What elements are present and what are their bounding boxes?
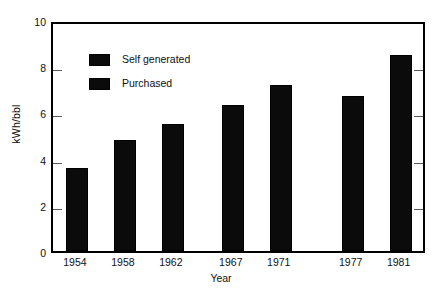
y-tick-left-2 [53,209,62,210]
bar-1971 [270,85,292,251]
x-axis-tick-labels: 1954195819621967197119771981 [0,256,442,272]
y-tick-label-4: 4 [26,156,46,166]
y-tick-left-4 [53,163,62,164]
y-tick-label-8: 8 [26,63,46,73]
y-tick-right-8 [414,70,423,71]
bar-1958 [114,140,136,251]
x-tick-label-1971: 1971 [254,256,304,268]
bar-1977 [342,96,364,251]
x-tick-label-1954: 1954 [50,256,100,268]
bar-1954 [66,168,88,251]
x-tick-label-1967: 1967 [206,256,256,268]
bar-chart: kWh/bbl 1086420 Self generated Purchased… [0,0,442,294]
bar-1967 [222,105,244,251]
y-tick-right-2 [414,209,423,210]
legend-swatch-purchased [89,78,110,90]
plot-area: Self generated Purchased [51,22,425,253]
legend-swatch-self-generated [89,54,110,66]
y-tick-label-10: 10 [26,17,46,27]
y-axis-title: kWh/bbl [10,94,22,154]
x-tick-label-1977: 1977 [326,256,376,268]
legend-label-self-generated: Self generated [122,54,190,65]
y-tick-left-8 [53,70,62,71]
x-tick-label-1981: 1981 [374,256,424,268]
x-tick-label-1958: 1958 [98,256,148,268]
x-axis-title: Year [0,272,442,284]
x-tick-label-1962: 1962 [146,256,196,268]
y-tick-right-6 [414,116,423,117]
y-tick-right-4 [414,163,423,164]
bar-1962 [162,124,184,251]
legend: Self generated Purchased [89,50,249,98]
legend-item: Self generated [89,50,249,69]
bar-1981 [390,55,412,251]
y-tick-label-6: 6 [26,109,46,119]
y-tick-left-6 [53,116,62,117]
y-tick-label-2: 2 [26,202,46,212]
legend-item: Purchased [89,74,249,93]
legend-label-purchased: Purchased [122,78,172,89]
